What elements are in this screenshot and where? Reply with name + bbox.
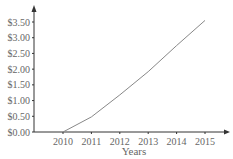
y-axis: $0.00$0.50$1.00$1.50$2.00$2.50$3.00$3.50 bbox=[8, 5, 37, 138]
y-tick-label: $3.50 bbox=[8, 17, 31, 28]
x-tick-label: 2010 bbox=[53, 136, 73, 147]
line-chart: $0.00$0.50$1.00$1.50$2.00$2.50$3.00$3.50… bbox=[0, 0, 233, 159]
y-tick-label: $0.50 bbox=[8, 111, 31, 122]
y-tick-label: $3.00 bbox=[8, 32, 31, 43]
y-tick-label: $1.50 bbox=[8, 79, 31, 90]
x-axis-arrow-icon bbox=[224, 130, 230, 135]
x-axis-title: Years bbox=[122, 145, 147, 157]
x-tick-label: 2011 bbox=[82, 136, 102, 147]
y-axis-arrow-icon bbox=[32, 5, 37, 12]
series-line bbox=[63, 20, 205, 132]
y-tick-label: $1.00 bbox=[8, 95, 31, 106]
y-tick-label: $2.00 bbox=[8, 64, 31, 75]
x-tick-label: 2014 bbox=[167, 136, 187, 147]
y-tick-label: $0.00 bbox=[8, 127, 31, 138]
data-series bbox=[63, 20, 205, 132]
y-tick-label: $2.50 bbox=[8, 48, 31, 59]
x-tick-label: 2015 bbox=[195, 136, 215, 147]
